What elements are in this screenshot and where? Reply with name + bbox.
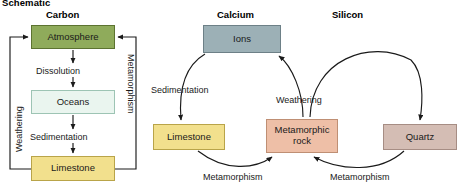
box-atmosphere: Atmosphere [31, 25, 115, 49]
column-title-carbon: Carbon [46, 9, 79, 20]
box-limestone-carbon: Limestone [31, 156, 115, 181]
schematic-diagram: Schematic Carbon Calcium Silicon [0, 0, 465, 191]
arrow-weathering-calcium [279, 56, 303, 117]
label-sedimentation-calcium: Sedimentation [151, 85, 209, 95]
label-metamorphism-calcium: Metamorphism [203, 172, 263, 182]
column-title-silicon: Silicon [332, 9, 363, 20]
box-limestone-calcium: Limestone [153, 124, 225, 150]
label-sedimentation-carbon: Sedimentation [30, 132, 88, 142]
box-metamorphic-rock: Metamorphic rock [266, 119, 338, 153]
box-oceans: Oceans [31, 90, 115, 114]
arrow-metamorphism-calcium [198, 151, 272, 166]
box-quartz: Quartz [383, 124, 457, 150]
box-ions: Ions [203, 25, 281, 53]
label-metamorphism-carbon: Metamorphism [126, 54, 136, 114]
schematic-title: Schematic [2, 0, 50, 8]
label-weathering-carbon: Weathering [14, 106, 24, 152]
label-metamorphism-silicon: Metamorphism [330, 172, 390, 182]
label-dissolution: Dissolution [36, 66, 80, 76]
column-title-calcium: Calcium [217, 9, 254, 20]
arrow-weathering-silicon [310, 52, 422, 120]
arrow-metamorphism-silicon [314, 151, 404, 168]
label-weathering-calcium: Weathering [276, 95, 322, 105]
